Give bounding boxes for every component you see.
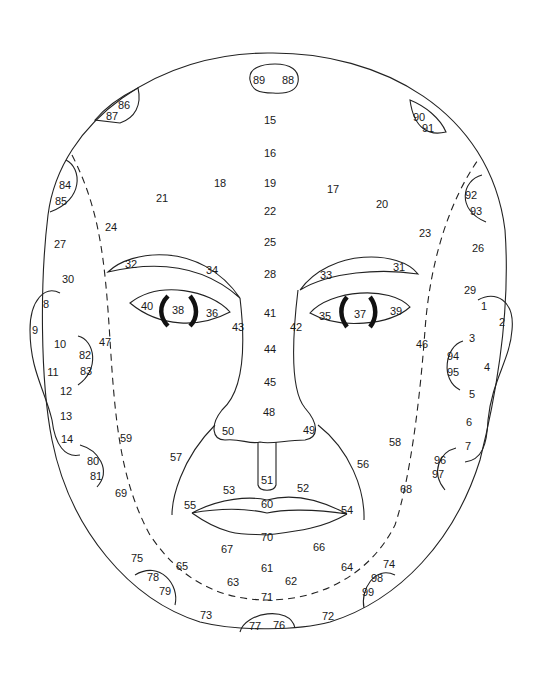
zone-label-78: 78 (147, 572, 159, 583)
zone-label-88: 88 (282, 75, 294, 86)
zone-label-31: 31 (393, 262, 405, 273)
zone-label-1: 1 (481, 301, 487, 312)
zone-label-24: 24 (105, 222, 117, 233)
zone-label-42: 42 (290, 322, 302, 333)
zone-label-85: 85 (55, 196, 67, 207)
zone-label-60: 60 (261, 499, 273, 510)
zone-label-23: 23 (419, 228, 431, 239)
zone-label-72: 72 (322, 611, 334, 622)
zone-label-63: 63 (227, 577, 239, 588)
zone-label-83: 83 (80, 366, 92, 377)
zone-label-91: 91 (422, 123, 434, 134)
zone-label-74: 74 (383, 559, 395, 570)
zone-label-96: 96 (434, 455, 446, 466)
zone-label-79: 79 (159, 586, 171, 597)
zone-label-57: 57 (170, 452, 182, 463)
zone-label-58: 58 (389, 437, 401, 448)
zone-label-53: 53 (223, 485, 235, 496)
zone-label-94: 94 (447, 351, 459, 362)
zone-label-7: 7 (465, 441, 471, 452)
zone-label-55: 55 (184, 500, 196, 511)
zone-label-66: 66 (313, 542, 325, 553)
zone-label-56: 56 (357, 459, 369, 470)
zone-label-80: 80 (87, 456, 99, 467)
zone-label-67: 67 (221, 544, 233, 555)
zone-label-86: 86 (118, 100, 130, 111)
zone-label-15: 15 (264, 115, 276, 126)
zone-label-28: 28 (264, 269, 276, 280)
zone-label-95: 95 (447, 367, 459, 378)
zone-label-26: 26 (472, 243, 484, 254)
zone-label-69: 69 (115, 488, 127, 499)
zone-label-35: 35 (319, 311, 331, 322)
zone-label-4: 4 (484, 362, 490, 373)
zone-label-18: 18 (214, 178, 226, 189)
zone-label-37: 37 (354, 309, 366, 320)
zone-label-9: 9 (32, 325, 38, 336)
zone-label-12: 12 (60, 386, 72, 397)
zone-label-5: 5 (469, 389, 475, 400)
zone-label-14: 14 (61, 434, 73, 445)
zone-label-46: 46 (416, 339, 428, 350)
zone-label-81: 81 (90, 471, 102, 482)
zone-label-2: 2 (499, 317, 505, 328)
zone-label-49: 49 (303, 425, 315, 436)
zone-label-47: 47 (99, 337, 111, 348)
zone-label-25: 25 (264, 237, 276, 248)
zone-label-41: 41 (264, 308, 276, 319)
right-ear (465, 296, 512, 462)
zone-label-34: 34 (206, 265, 218, 276)
zone-label-71: 71 (261, 592, 273, 603)
zone-label-32: 32 (125, 259, 137, 270)
zone-label-84: 84 (59, 180, 71, 191)
zone-label-64: 64 (341, 562, 353, 573)
zone-label-8: 8 (43, 299, 49, 310)
zone-label-39: 39 (390, 306, 402, 317)
zone-label-98: 98 (371, 573, 383, 584)
zone-label-97: 97 (432, 469, 444, 480)
zone-label-99: 99 (362, 587, 374, 598)
zone-label-38: 38 (172, 305, 184, 316)
zone-label-11: 11 (47, 367, 58, 378)
zone-label-43: 43 (232, 322, 244, 333)
zone-label-75: 75 (131, 553, 143, 564)
zone-label-54: 54 (341, 505, 353, 516)
zone-label-93: 93 (470, 206, 482, 217)
zone-label-77: 77 (249, 621, 261, 632)
zone-label-16: 16 (264, 148, 276, 159)
zone-label-19: 19 (264, 178, 276, 189)
zone-label-29: 29 (464, 285, 476, 296)
zone-label-65: 65 (176, 561, 188, 572)
zone-label-51: 51 (261, 475, 273, 486)
zone-label-44: 44 (264, 344, 276, 355)
zone-label-68: 68 (400, 484, 412, 495)
zone-label-50: 50 (222, 426, 234, 437)
zone-label-30: 30 (62, 274, 74, 285)
head-outline (42, 53, 506, 629)
zone-label-76: 76 (273, 620, 285, 631)
zone-label-13: 13 (60, 411, 72, 422)
zone-label-73: 73 (200, 610, 212, 621)
zone-label-92: 92 (465, 190, 477, 201)
zone-label-48: 48 (263, 407, 275, 418)
zone-label-59: 59 (120, 433, 132, 444)
zone-label-52: 52 (297, 483, 309, 494)
zone-label-82: 82 (79, 350, 91, 361)
zone-label-3: 3 (469, 333, 475, 344)
zone-label-89: 89 (253, 75, 265, 86)
zone-label-20: 20 (376, 199, 388, 210)
zone-label-40: 40 (141, 301, 153, 312)
zone-label-70: 70 (261, 532, 273, 543)
zone-label-36: 36 (206, 308, 218, 319)
zone-label-10: 10 (54, 339, 66, 350)
zone-label-17: 17 (327, 184, 339, 195)
zone-label-61: 61 (261, 563, 273, 574)
zone-label-21: 21 (156, 193, 168, 204)
zone-label-33: 33 (320, 270, 332, 281)
zone-label-87: 87 (106, 111, 118, 122)
zone-label-45: 45 (264, 377, 276, 388)
zone-label-27: 27 (54, 239, 66, 250)
zone-label-22: 22 (264, 206, 276, 217)
zone-label-6: 6 (466, 417, 472, 428)
zone-label-62: 62 (285, 576, 297, 587)
